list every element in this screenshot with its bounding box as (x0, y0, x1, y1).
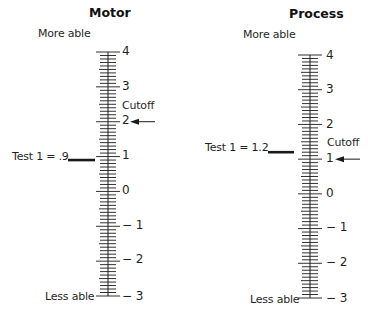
motor-cutoff-arrow-icon (130, 119, 139, 125)
tick-label: 2 (326, 118, 334, 130)
tick-label: 4 (326, 49, 334, 61)
tick-label: 4 (122, 45, 130, 57)
process-more-able-label: More able (243, 29, 296, 40)
tick-label: − 2 (122, 253, 144, 265)
motor-less-able-label: Less able (45, 291, 94, 302)
process-title: Process (289, 8, 344, 21)
tick-label: 3 (326, 83, 334, 95)
process-cutoff-arrow-icon (335, 156, 344, 162)
tick-label: − 2 (326, 256, 348, 268)
tick-label: − 1 (122, 219, 144, 231)
tick-label: − 3 (122, 290, 144, 302)
tick-label: 0 (122, 184, 130, 196)
motor-test-label: Test 1 = .9 (12, 151, 69, 162)
diagram-canvas: Motor More able Less able Cutoff Test 1 … (0, 0, 368, 314)
motor-more-able-label: More able (38, 28, 91, 39)
tick-label: − 3 (326, 292, 348, 304)
tick-label: 3 (122, 80, 130, 92)
motor-cutoff-label: Cutoff (122, 100, 154, 111)
process-test-label: Test 1 = 1.2 (205, 142, 268, 153)
motor-title: Motor (89, 7, 131, 20)
tick-label: − 1 (326, 221, 348, 233)
tick-label: 1 (326, 152, 334, 164)
process-cutoff-label: Cutoff (327, 137, 359, 148)
tick-label: 2 (122, 114, 130, 126)
tick-label: 0 (326, 187, 334, 199)
process-less-able-label: Less able (250, 294, 299, 305)
tick-label: 1 (122, 149, 130, 161)
